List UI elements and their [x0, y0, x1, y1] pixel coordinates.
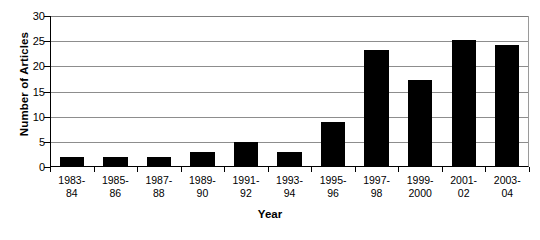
bar-slot	[181, 16, 225, 167]
x-axis-tick-label-line: 2000	[398, 187, 442, 200]
x-axis-tick-label: 1991-92	[224, 174, 268, 200]
bar-slot	[94, 16, 138, 167]
x-axis-tick-mark	[50, 167, 51, 172]
x-axis-tick-label: 1985-86	[94, 174, 138, 200]
bar-series	[50, 16, 529, 167]
x-axis-tick-label-line: 86	[94, 187, 138, 200]
y-axis-tick-label: 5	[5, 137, 45, 148]
x-axis-tick-label-line: 92	[224, 187, 268, 200]
x-axis-tick-mark	[529, 167, 530, 172]
x-axis-tick-mark	[94, 167, 95, 172]
x-axis-tick-mark	[355, 167, 356, 172]
x-axis-tick-label-line: 1999-	[398, 174, 442, 187]
y-axis-tick-label: 25	[5, 36, 45, 47]
y-axis-tick-label: 0	[5, 162, 45, 173]
x-axis-tick-label: 2001-02	[442, 174, 486, 200]
bar	[147, 157, 171, 167]
x-axis-tick-label: 1997-98	[355, 174, 399, 200]
x-axis-tick-label: 1995-96	[311, 174, 355, 200]
x-axis-tick-label-line: 1993-	[268, 174, 312, 187]
x-axis-tick-label-line: 02	[442, 187, 486, 200]
x-axis-tick-label: 2003-04	[485, 174, 529, 200]
x-axis-tick-label-line: 88	[137, 187, 181, 200]
x-axis-tick-label-line: 1995-	[311, 174, 355, 187]
bar	[408, 80, 432, 167]
x-axis-tick-labels: 1983-841985-861987-881989-901991-921993-…	[50, 174, 529, 200]
bar	[234, 142, 258, 167]
x-axis-tick-label-line: 84	[50, 187, 94, 200]
bar	[321, 122, 345, 167]
x-axis-tick-label-line: 1997-	[355, 174, 399, 187]
x-axis-tick-mark	[181, 167, 182, 172]
x-axis-tick-label: 1999-2000	[398, 174, 442, 200]
x-axis-tick-label-line: 2001-	[442, 174, 486, 187]
x-axis-tick-mark	[268, 167, 269, 172]
bar-slot	[50, 16, 94, 167]
bar-chart: Number of Articles 302520151050 1983-841…	[0, 0, 540, 240]
x-axis-tick-label-line: 98	[355, 187, 399, 200]
y-axis-tick-label: 20	[5, 61, 45, 72]
x-axis-tick-label-line: 96	[311, 187, 355, 200]
bar	[190, 152, 214, 167]
x-axis-tick-label-line: 1987-	[137, 174, 181, 187]
x-axis-tick-mark	[442, 167, 443, 172]
bar	[495, 45, 519, 167]
x-axis-tick-label-line: 1983-	[50, 174, 94, 187]
y-axis-tick-label: 10	[5, 112, 45, 123]
x-axis-tick-label-line: 2003-	[485, 174, 529, 187]
x-axis-tick-label: 1983-84	[50, 174, 94, 200]
bar-slot	[355, 16, 399, 167]
y-axis-tick-label: 30	[5, 11, 45, 22]
bar	[452, 40, 476, 167]
bar-slot	[224, 16, 268, 167]
x-axis-tick-label: 1993-94	[268, 174, 312, 200]
x-axis-tick-mark	[485, 167, 486, 172]
x-axis-tick-label-line: 90	[181, 187, 225, 200]
x-axis-title: Year	[0, 208, 540, 220]
x-axis-tick-label-line: 1991-	[224, 174, 268, 187]
bar	[60, 157, 84, 167]
x-axis-tick-label: 1987-88	[137, 174, 181, 200]
bar-slot	[137, 16, 181, 167]
x-axis-tick-label-line: 04	[485, 187, 529, 200]
x-axis-tick-mark	[224, 167, 225, 172]
x-axis-tick-label-line: 1989-	[181, 174, 225, 187]
bar-slot	[268, 16, 312, 167]
x-axis-ticks	[50, 167, 529, 173]
x-axis-tick-mark	[398, 167, 399, 172]
bar	[277, 152, 301, 167]
x-axis-tick-label-line: 1985-	[94, 174, 138, 187]
bar-slot	[485, 16, 529, 167]
bar-slot	[442, 16, 486, 167]
x-axis-tick-mark	[311, 167, 312, 172]
bar-slot	[311, 16, 355, 167]
bar	[103, 157, 127, 167]
bar-slot	[398, 16, 442, 167]
y-axis-tick-label: 15	[5, 87, 45, 98]
x-axis-tick-mark	[137, 167, 138, 172]
bar	[364, 50, 388, 167]
x-axis-tick-label: 1989-90	[181, 174, 225, 200]
x-axis-tick-label-line: 94	[268, 187, 312, 200]
